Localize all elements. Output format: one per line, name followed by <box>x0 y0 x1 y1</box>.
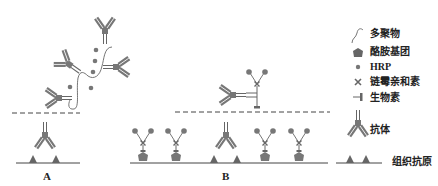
tissue-antigen-icon <box>336 155 382 163</box>
legend-label-streptavidin: 链霉亲和素 <box>370 77 420 87</box>
panel-a-label: A <box>43 170 51 182</box>
panel-b <box>130 69 330 163</box>
hrp-dot-icon <box>93 59 98 64</box>
panel-b-label: B <box>222 170 229 182</box>
antibody-icon <box>34 122 56 149</box>
antibody-icon <box>347 110 369 137</box>
tissue-antigen-icon <box>29 155 37 163</box>
hrp-dot-icon <box>91 70 96 75</box>
antibody-icon <box>51 47 86 81</box>
legend-label-polymer: 多聚物 <box>370 29 400 39</box>
streptavidin-hrp-complex <box>165 128 187 161</box>
panel-a <box>12 17 130 163</box>
biotinylated-antibody-complex <box>219 69 268 108</box>
antibody-icon <box>103 56 130 78</box>
tissue-antigen-icon <box>210 155 218 163</box>
antibody-icon <box>45 87 72 109</box>
streptavidin-hrp-complex <box>132 128 154 161</box>
polymer-icon <box>352 29 363 43</box>
antibody-icon <box>94 17 116 44</box>
biotin-icon <box>353 93 363 101</box>
legend-label-biotin: 生物素 <box>370 93 400 103</box>
hrp-dot-icon <box>89 86 94 91</box>
streptavidin-hrp-complex <box>288 128 310 161</box>
streptavidin-cross-icon <box>355 79 361 85</box>
antibody-icon <box>215 122 237 149</box>
hrp-dot-icon <box>356 65 360 69</box>
tyramide-group-icon <box>353 48 363 57</box>
polymer-icon <box>69 47 112 109</box>
tissue-antigen-icon <box>52 155 60 163</box>
legend-label-tyramide: 酪胺基团 <box>370 47 410 57</box>
tissue-antigen-icon <box>233 155 241 163</box>
streptavidin-hrp-complex <box>254 128 276 161</box>
legend-label-hrp: HRP <box>370 62 391 72</box>
legend-label-tissue-antigen: 组织抗原 <box>392 157 432 167</box>
hrp-dot-icon <box>68 85 73 90</box>
legend-label-antibody: 抗体 <box>370 125 390 135</box>
hrp-dot-icon <box>94 48 99 53</box>
